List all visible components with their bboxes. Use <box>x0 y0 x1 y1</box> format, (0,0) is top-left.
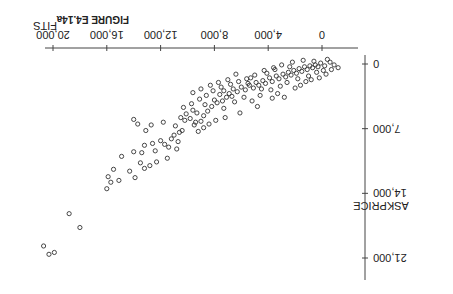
data-point <box>163 142 167 146</box>
data-point <box>219 85 223 89</box>
data-point <box>234 72 238 76</box>
data-point <box>78 225 82 229</box>
data-point <box>154 160 158 164</box>
data-point <box>235 90 239 94</box>
data-point <box>312 59 316 63</box>
data-point <box>198 97 202 101</box>
data-point <box>253 73 257 77</box>
data-point <box>214 118 218 122</box>
data-point <box>336 66 340 70</box>
x-tick-label: 16,000 <box>90 29 124 41</box>
data-point <box>132 150 136 154</box>
data-point <box>208 83 212 87</box>
data-point <box>136 122 140 126</box>
data-point <box>183 118 187 122</box>
data-point <box>175 147 179 151</box>
data-point <box>280 63 284 67</box>
data-point <box>226 78 230 82</box>
data-point <box>181 105 185 109</box>
data-point <box>250 99 254 103</box>
y-axis: 07,00014,00021,000 <box>362 55 407 280</box>
data-point <box>195 111 199 115</box>
data-point <box>142 166 146 170</box>
data-point <box>188 116 192 120</box>
x-axis-label: FITS <box>33 20 57 32</box>
data-point <box>199 119 203 123</box>
data-point <box>220 99 224 103</box>
data-point <box>251 86 255 90</box>
scatter-figure: 04,0008,00012,00016,00020,000 07,00014,0… <box>0 0 453 294</box>
data-point <box>315 70 319 74</box>
data-point <box>210 104 214 108</box>
x-tick-label: 4,000 <box>254 29 282 41</box>
x-tick-label: 0 <box>319 29 325 41</box>
data-point <box>128 169 132 173</box>
data-points <box>41 57 340 256</box>
data-point <box>191 108 195 112</box>
data-point <box>276 91 280 95</box>
data-point <box>203 103 207 107</box>
data-point <box>249 76 253 80</box>
data-point <box>325 57 329 61</box>
data-point <box>41 244 45 248</box>
x-axis: 04,0008,00012,00016,00020,000 <box>36 29 358 51</box>
data-point <box>138 161 142 165</box>
data-point <box>67 212 71 216</box>
data-point <box>149 123 153 127</box>
data-point <box>289 73 293 77</box>
data-point <box>133 176 137 180</box>
data-point <box>109 180 113 184</box>
data-point <box>329 67 333 71</box>
data-point <box>255 104 259 108</box>
data-point <box>140 151 144 155</box>
scatter-plot: 04,0008,00012,00016,00020,000 07,00014,0… <box>0 0 453 294</box>
data-point <box>216 80 220 84</box>
data-point <box>222 106 226 110</box>
data-point <box>245 77 249 81</box>
data-point <box>111 167 115 171</box>
data-point <box>173 124 177 128</box>
data-point <box>106 175 110 179</box>
data-point <box>176 140 180 144</box>
data-point <box>237 79 241 83</box>
data-point <box>148 164 152 168</box>
data-point <box>284 75 288 79</box>
data-point <box>132 117 136 121</box>
data-point <box>304 79 308 83</box>
data-point <box>179 115 183 119</box>
data-point <box>288 65 292 69</box>
data-point <box>47 252 51 256</box>
data-point <box>202 126 206 130</box>
figure-label: FIGURE E4.14a <box>56 14 129 25</box>
data-point <box>172 133 176 137</box>
data-point <box>105 187 109 191</box>
data-point <box>263 81 267 85</box>
data-point <box>117 178 121 182</box>
data-point <box>165 156 169 160</box>
data-point <box>293 86 297 90</box>
data-point <box>202 114 206 118</box>
data-point <box>232 100 236 104</box>
data-point <box>300 69 304 73</box>
y-tick-label: 0 <box>373 58 379 70</box>
data-point <box>231 87 235 91</box>
data-point <box>296 77 300 81</box>
data-point <box>212 98 216 102</box>
data-point <box>239 85 243 89</box>
data-point <box>269 88 273 92</box>
data-point <box>285 80 289 84</box>
data-point <box>142 143 146 147</box>
data-point <box>317 76 321 80</box>
data-point <box>204 93 208 97</box>
y-tick-label: 14,000 <box>373 187 407 199</box>
data-point <box>184 112 188 116</box>
data-point <box>52 250 56 254</box>
data-point <box>144 128 148 132</box>
data-point <box>191 91 195 95</box>
data-point <box>270 79 274 83</box>
data-point <box>238 111 242 115</box>
y-axis-label: ASKPRICE <box>353 200 409 212</box>
data-point <box>207 122 211 126</box>
data-point <box>298 83 302 87</box>
data-point <box>282 95 286 99</box>
